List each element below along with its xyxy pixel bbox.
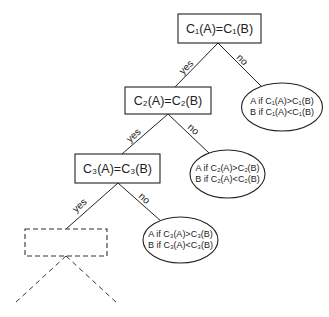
placeholder-node xyxy=(25,229,107,256)
edge-label-n1-no: no xyxy=(235,52,251,68)
outcome-node-1: A if C₁(A)>C₁(B) B if C₁(A)<C₁(B) xyxy=(242,83,323,131)
condition-label-1: C₁(A)=C₁(B) xyxy=(186,22,253,36)
edge-label-n2-yes: yes xyxy=(124,126,143,145)
condition-node-2: C₂(A)=C₂(B) xyxy=(125,87,211,114)
condition-label-2: C₂(A)=C₂(B) xyxy=(134,94,202,108)
condition-label-3: C₃(A)=C₃(B) xyxy=(83,162,152,176)
outcome-node-2: A if C₂(A)>C₂(B) B if C₂(A)<C₂(B) xyxy=(190,150,265,198)
condition-node-1: C₁(A)=C₁(B) xyxy=(178,14,261,43)
outcome-1-line-2: B if C₁(A)<C₁(B) xyxy=(250,107,314,117)
edge-n4-left xyxy=(15,256,66,303)
edge-label-n1-yes: yes xyxy=(177,58,196,77)
edge-n4-right xyxy=(66,256,117,303)
outcome-2-line-1: A if C₂(A)>C₂(B) xyxy=(195,163,259,173)
outcome-1-line-1: A if C₁(A)>C₁(B) xyxy=(250,96,313,106)
edge-label-n2-no: no xyxy=(186,121,202,137)
edge-n1-no xyxy=(218,43,264,89)
outcome-3-line-2: B if C₃(A)<C₃(B) xyxy=(148,240,213,250)
outcome-3-line-1: A if C₃(A)>C₃(B) xyxy=(148,229,213,239)
edge-n2-no xyxy=(168,114,210,154)
decision-tree-diagram: yes no yes no yes no C₁(A)=C₁(B) C₂(A)=C… xyxy=(0,0,329,317)
edge-label-n3-no: no xyxy=(137,190,153,206)
edge-n3-no xyxy=(118,183,162,222)
outcome-node-3: A if C₃(A)>C₃(B) B if C₃(A)<C₃(B) xyxy=(143,217,218,263)
outcome-2-line-2: B if C₂(A)<C₂(B) xyxy=(195,174,260,184)
condition-node-3: C₃(A)=C₃(B) xyxy=(75,154,160,183)
